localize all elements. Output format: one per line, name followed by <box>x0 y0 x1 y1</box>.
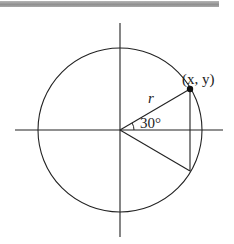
reflected-radius-line <box>120 130 190 171</box>
point-label: (x, y) <box>182 71 215 88</box>
angle-arc <box>132 123 134 130</box>
radius-label: r <box>148 90 154 106</box>
unit-circle-diagram: (x, y) r 30° <box>0 0 234 244</box>
angle-label: 30° <box>140 115 161 131</box>
